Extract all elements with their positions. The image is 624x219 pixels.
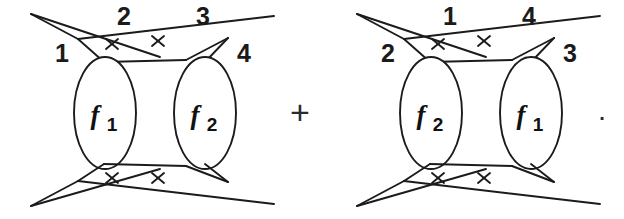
- leg-lower-right-vertex-to-blob2: [531, 164, 554, 182]
- cross-mark-upper-right: [152, 36, 164, 46]
- leg-lower-left-vertex-to-blob1: [78, 164, 104, 181]
- cross-mark-lower-right: [478, 173, 490, 183]
- leg-label-top-left: 2: [117, 2, 131, 30]
- blob-f2-right: [400, 57, 462, 169]
- cross-mark-lower-right: [152, 173, 164, 183]
- diagram-svg: f 1 f 2 2 3 1 4 +: [0, 0, 624, 219]
- leg-lower-left-vertex-to-blob1: [404, 164, 430, 181]
- leg-label-outer-right: 4: [237, 39, 251, 67]
- blob-f2-left: [174, 57, 236, 169]
- leg-lower-outer-left: [31, 181, 78, 206]
- blob-f1-right: [500, 57, 562, 169]
- cross-mark-lower-left: [432, 173, 444, 183]
- trailing-period: .: [599, 102, 605, 124]
- plus-operator: +: [290, 93, 310, 131]
- leg-label-outer-left: 2: [381, 39, 395, 67]
- blob-f1-right-subscript: 1: [533, 114, 544, 135]
- leg-upper-long-left: [31, 14, 160, 57]
- leg-label-top-right: 3: [196, 2, 210, 30]
- leg-label-top-left: 1: [443, 2, 457, 30]
- leg-upper-left-to-right-corner: [404, 16, 600, 39]
- leg-label-outer-right: 3: [563, 39, 577, 67]
- leg-lower-outer-left: [357, 181, 404, 206]
- cross-mark-lower-left: [106, 173, 118, 183]
- leg-upper-long-left: [357, 14, 486, 57]
- leg-label-outer-left: 1: [55, 39, 69, 67]
- left-diagram: f 1 f 2 2 3 1 4: [31, 2, 274, 206]
- leg-lower-right-vertex-to-blob2: [205, 164, 228, 182]
- right-diagram: f 2 f 1 1 4 2 3: [357, 2, 600, 206]
- figure-canvas: f 1 f 2 2 3 1 4 +: [0, 0, 624, 219]
- blob-f1-left-subscript: 1: [107, 114, 118, 135]
- cross-mark-upper-right: [478, 36, 490, 46]
- blob-f2-left-subscript: 2: [207, 114, 218, 135]
- blob-f2-right-subscript: 2: [433, 114, 444, 135]
- leg-label-top-right: 4: [522, 2, 536, 30]
- leg-upper-left-to-right-corner: [78, 16, 274, 39]
- blob-f1-left: [74, 57, 136, 169]
